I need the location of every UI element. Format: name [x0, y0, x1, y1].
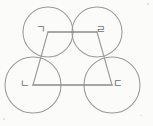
- scan-speck: [140, 115, 142, 116]
- scan-speck: [147, 3, 149, 5]
- scan-speck: [3, 118, 5, 120]
- vertex-label-top-left: ㄱ: [36, 23, 46, 35]
- geometry-figure: ㄱ ㄹ ㄴ ㄷ: [0, 0, 153, 126]
- vertex-label-top-right: ㄹ: [96, 23, 106, 35]
- figure-canvas: ㄱ ㄹ ㄴ ㄷ: [0, 0, 153, 126]
- vertex-label-bottom-left: ㄴ: [20, 77, 30, 89]
- vertex-label-bottom-right: ㄷ: [113, 77, 123, 89]
